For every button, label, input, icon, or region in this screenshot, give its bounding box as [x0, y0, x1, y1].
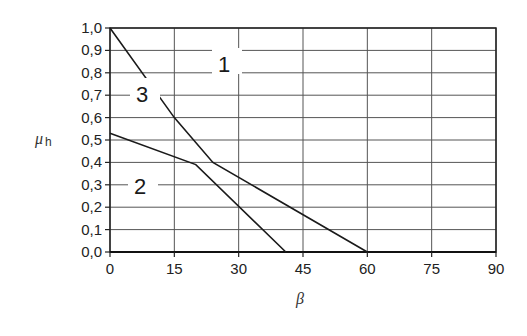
- y-axis-label-symbol: μ: [34, 130, 43, 148]
- x-tick-label: 75: [423, 260, 440, 277]
- y-tick-label: 0,8: [81, 64, 102, 81]
- x-tick-label: 30: [230, 260, 247, 277]
- y-tick-label: 0,0: [81, 243, 102, 260]
- y-tick-label: 0,4: [81, 153, 102, 170]
- curve-label-3: 3: [136, 82, 148, 107]
- grid-lines: [110, 28, 496, 252]
- x-tick-label: 0: [106, 260, 114, 277]
- x-axis-ticks: 0153045607590: [106, 252, 505, 277]
- y-axis-label: μh: [34, 130, 52, 149]
- curve-label-2: 2: [134, 174, 146, 199]
- y-tick-label: 0,1: [81, 221, 102, 238]
- y-tick-label: 1,0: [81, 19, 102, 36]
- x-axis-label: β: [295, 290, 304, 308]
- y-axis-label-subscript: h: [45, 135, 52, 149]
- y-tick-label: 0,5: [81, 131, 102, 148]
- y-tick-label: 0,6: [81, 109, 102, 126]
- x-tick-label: 15: [166, 260, 183, 277]
- y-tick-label: 0,2: [81, 198, 102, 215]
- y-tick-label: 0,9: [81, 41, 102, 58]
- chart: 0,00,10,20,30,40,50,60,70,80,91,0 015304…: [0, 0, 527, 336]
- curve-label-1: 1: [218, 52, 230, 77]
- x-tick-label: 60: [359, 260, 376, 277]
- y-axis-ticks: 0,00,10,20,30,40,50,60,70,80,91,0: [81, 19, 110, 260]
- y-tick-label: 0,3: [81, 176, 102, 193]
- x-tick-label: 90: [488, 260, 505, 277]
- x-tick-label: 45: [295, 260, 312, 277]
- y-tick-label: 0,7: [81, 86, 102, 103]
